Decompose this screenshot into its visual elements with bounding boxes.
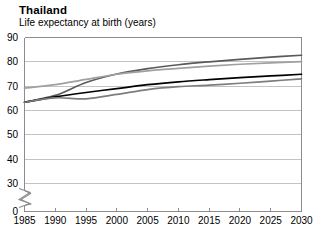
data-series-lines (25, 55, 302, 102)
x-axis-tick-label: 1985 (13, 215, 36, 226)
x-axis-tick-label: 2000 (106, 215, 129, 226)
y-axis-tick-label: 90 (7, 32, 19, 43)
gridlines (25, 38, 302, 184)
x-axis-tick-label: 2025 (260, 215, 283, 226)
life-expectancy-chart: Thailand Life expectancy at birth (years… (0, 0, 313, 233)
x-axis-tick-label: 2015 (198, 215, 221, 226)
x-axis-tick-label: 2010 (167, 215, 190, 226)
series-line-1 (25, 62, 302, 89)
y-axis-ticks: 030405060708090 (7, 32, 19, 217)
axis-break-marker-inner (21, 191, 31, 206)
x-axis-tick-label: 1990 (44, 215, 67, 226)
x-axis-tick-label: 2005 (136, 215, 159, 226)
x-axis-tick-label: 2020 (229, 215, 252, 226)
chart-plot-area: 030405060708090 198519901995200020052010… (0, 0, 313, 233)
y-axis-tick-label: 80 (7, 56, 19, 67)
y-axis-tick-label: 50 (7, 129, 19, 140)
y-axis-tick-label: 40 (7, 154, 19, 165)
y-axis-tick-label: 60 (7, 105, 19, 116)
x-axis-ticks: 1985199019952000200520102015202020252030 (13, 208, 313, 227)
x-axis-tick-label: 2030 (290, 215, 313, 226)
y-axis-tick-label: 30 (7, 178, 19, 189)
y-axis-tick-label: 70 (7, 81, 19, 92)
x-axis-tick-label: 1995 (75, 215, 98, 226)
